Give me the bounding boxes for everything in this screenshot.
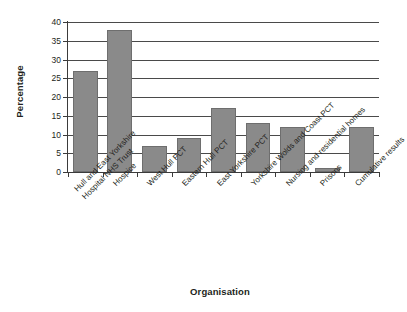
bar bbox=[73, 71, 98, 172]
x-axis-tick-mark bbox=[310, 172, 311, 177]
x-axis-tick-mark bbox=[241, 172, 242, 177]
y-axis-tick-label: 0 bbox=[56, 167, 61, 177]
y-axis-tick-label: 25 bbox=[52, 73, 61, 83]
y-axis-tick-label: 35 bbox=[52, 36, 61, 46]
y-axis-tick-mark bbox=[63, 60, 68, 61]
y-axis-tick-label: 15 bbox=[52, 111, 61, 121]
y-axis-title: Percentage bbox=[14, 42, 25, 142]
y-axis-tick-mark bbox=[63, 135, 68, 136]
x-axis-tick-mark bbox=[172, 172, 173, 177]
y-axis-tick-label: 20 bbox=[52, 92, 61, 102]
x-axis-tick-mark bbox=[206, 172, 207, 177]
y-axis-tick-mark bbox=[63, 41, 68, 42]
x-axis-tick-mark bbox=[137, 172, 138, 177]
y-axis-tick-mark bbox=[63, 153, 68, 154]
y-axis-tick-mark bbox=[63, 97, 68, 98]
x-axis-tick-mark bbox=[275, 172, 276, 177]
y-axis-tick-mark bbox=[63, 78, 68, 79]
y-axis-tick-mark bbox=[63, 116, 68, 117]
x-axis-tick-mark bbox=[379, 172, 380, 177]
y-axis-tick-label: 30 bbox=[52, 55, 61, 65]
y-axis-tick-label: 40 bbox=[52, 17, 61, 27]
x-axis-tick-mark bbox=[344, 172, 345, 177]
x-axis-title: Organisation bbox=[60, 286, 380, 297]
y-axis-tick-label: 5 bbox=[56, 148, 61, 158]
y-axis-tick-mark bbox=[63, 22, 68, 23]
x-axis-tick-mark bbox=[68, 172, 69, 177]
y-axis-tick-label: 10 bbox=[52, 130, 61, 140]
gridline bbox=[68, 22, 379, 23]
